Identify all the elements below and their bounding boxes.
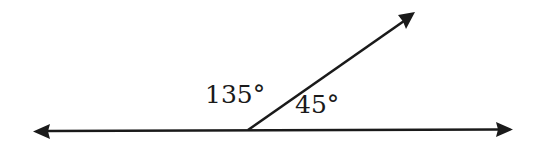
supplementary-angles-diagram: 135° 45° xyxy=(0,0,540,149)
ray-arrow-icon xyxy=(398,12,415,29)
acute-angle-label: 45° xyxy=(295,90,339,119)
right-arrow-icon xyxy=(496,122,513,137)
left-arrow-icon xyxy=(33,124,50,139)
obtuse-angle-label: 135° xyxy=(205,80,265,109)
horizontal-line xyxy=(33,122,513,139)
